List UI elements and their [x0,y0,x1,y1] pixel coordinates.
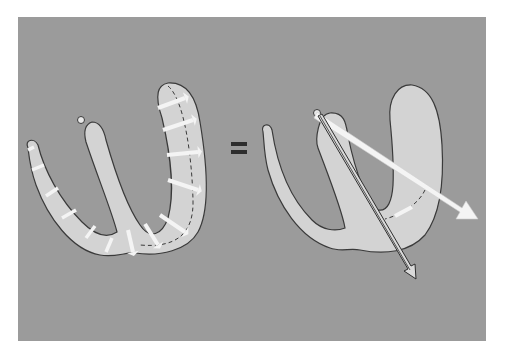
left-apex-knob [78,117,85,124]
ventricle-diagram [0,0,506,358]
right-ventricle [262,85,478,279]
equals-icon [231,142,247,154]
left-ventricle [27,83,206,256]
